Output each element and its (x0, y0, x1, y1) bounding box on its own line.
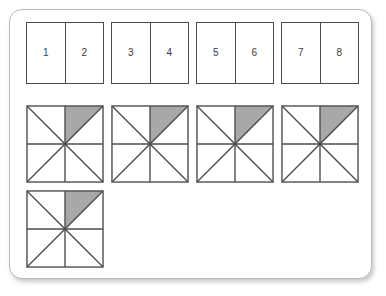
pair-box-1[interactable]: 1 2 (26, 22, 104, 84)
pair-cell-right: 2 (65, 23, 104, 83)
pair-cell-left: 5 (197, 23, 235, 83)
pair-box-2[interactable]: 3 4 (111, 22, 189, 84)
eighths-slot (281, 105, 359, 183)
eighths-figure-4[interactable] (281, 105, 359, 183)
pair-cell-right: 8 (320, 23, 359, 83)
eighths-figure-2[interactable] (111, 105, 189, 183)
figures-grid: 1 2 3 4 5 6 (26, 22, 358, 272)
pair-cell-right: 4 (150, 23, 189, 83)
eighths-figure-3[interactable] (196, 105, 274, 183)
pair-cell-left: 7 (282, 23, 320, 83)
eighths-figure-5[interactable] (26, 190, 104, 268)
pair-box-row: 1 2 3 4 5 6 (26, 22, 358, 84)
eighths-figure-1[interactable] (26, 105, 104, 183)
eighths-slot (111, 105, 189, 183)
pair-box-slot: 5 6 (196, 22, 274, 84)
eighths-row-bottom (26, 190, 358, 268)
screenshot-stage: 1 2 3 4 5 6 (0, 0, 386, 296)
eighths-slot (26, 190, 104, 268)
pair-box-slot: 1 2 (26, 22, 104, 84)
pair-cell-left: 1 (27, 23, 65, 83)
pair-cell-left: 3 (112, 23, 150, 83)
pair-box-4[interactable]: 7 8 (281, 22, 359, 84)
pair-box-slot: 3 4 (111, 22, 189, 84)
pair-box-3[interactable]: 5 6 (196, 22, 274, 84)
eighths-slot (26, 105, 104, 183)
eighths-slot (196, 105, 274, 183)
eighths-row-top (26, 105, 358, 183)
worksheet-card: 1 2 3 4 5 6 (9, 9, 372, 279)
pair-cell-right: 6 (235, 23, 274, 83)
pair-box-slot: 7 8 (281, 22, 359, 84)
